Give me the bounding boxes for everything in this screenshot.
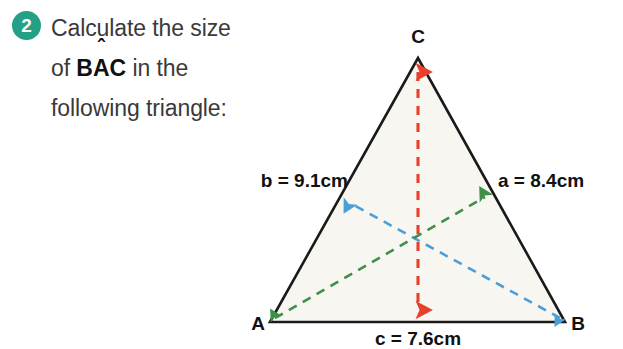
question-line-2-prefix: of xyxy=(51,55,76,81)
worksheet-page: 2 Calculate the size of BˆAC in the foll… xyxy=(0,0,623,349)
vertex-label-c: C xyxy=(411,26,425,47)
angle-expression: BˆAC xyxy=(76,55,126,81)
angle-vertex-a-with-hat: ˆA xyxy=(93,48,110,88)
vertex-label-a: A xyxy=(251,313,265,334)
angle-vertex-c: C xyxy=(110,55,127,81)
question-number-badge: 2 xyxy=(12,11,41,40)
angle-vertex-b: B xyxy=(76,55,93,81)
triangle-figure: C A B b = 9.1cm a = 8.4cm c = 7.6cm xyxy=(230,0,623,349)
vertex-label-b: B xyxy=(571,313,585,334)
side-label-a: a = 8.4cm xyxy=(498,170,584,191)
side-label-c: c = 7.6cm xyxy=(375,328,461,349)
angle-hat-icon: ˆ xyxy=(98,37,105,59)
side-label-b: b = 9.1cm xyxy=(261,170,348,191)
question-line-2-suffix: in the xyxy=(126,55,188,81)
